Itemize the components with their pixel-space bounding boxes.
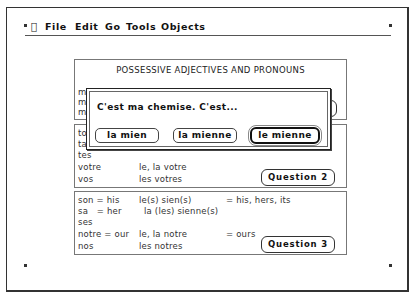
corner-mark-bl — [24, 264, 27, 267]
page-title: POSSESSIVE ADJECTIVES AND PRONOUNS — [75, 65, 346, 75]
adj-nos: nos — [78, 241, 94, 251]
adj-sa: sa = her — [78, 206, 122, 216]
pron-notre: le, la notre — [139, 229, 187, 239]
question-2-button[interactable]: Question 2 — [261, 169, 335, 186]
pron-notres: les notres — [139, 241, 183, 251]
menu-go[interactable]: Go — [105, 21, 121, 32]
answer-le-mienne-button[interactable]: le mienne — [250, 127, 320, 144]
pron-sien: le(s) sien(s) — [139, 195, 191, 205]
answer-la-mienne-button[interactable]: la mienne — [173, 128, 237, 143]
answer-la-mien-button[interactable]: la mien — [95, 128, 159, 143]
menu-bar:  File Edit Go Tools Objects — [25, 21, 391, 36]
dialog-prompt: C'est ma chemise. C'est... — [97, 102, 238, 112]
panel-third-person: son = his le(s) sien(s) = his, hers, its… — [74, 191, 347, 255]
menu-file[interactable]: File — [45, 21, 67, 32]
menu-edit[interactable]: Edit — [75, 21, 99, 32]
menu-objects[interactable]: Objects — [161, 21, 206, 32]
meaning-ours: = ours — [226, 229, 256, 239]
adj-notre: notre = our — [78, 229, 129, 239]
pron-votre: le, la votre — [139, 162, 187, 172]
adj-vos: vos — [78, 174, 93, 184]
corner-mark-br — [389, 264, 392, 267]
apple-icon[interactable]:  — [31, 21, 38, 32]
question-3-button[interactable]: Question 3 — [261, 236, 335, 253]
adj-votre: votre — [78, 162, 101, 172]
menu-tools[interactable]: Tools — [126, 21, 156, 32]
pron-votres: les votres — [139, 174, 182, 184]
adj-tes: tes — [78, 150, 92, 160]
pron-sienne: la (les) sienne(s) — [144, 206, 218, 216]
adj-son: son = his — [78, 195, 120, 205]
meaning-his-hers-its: = his, hers, its — [226, 195, 291, 205]
answer-dialog: C'est ma chemise. C'est... la mien la mi… — [86, 88, 331, 150]
adj-ses: ses — [78, 217, 93, 227]
